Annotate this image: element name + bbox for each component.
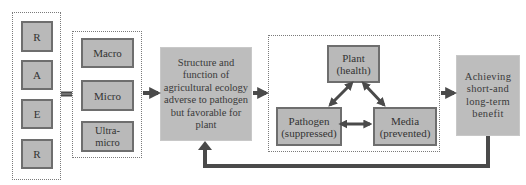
connector-raer-to-scale bbox=[61, 92, 72, 97]
feedback-arrowhead-icon bbox=[198, 141, 212, 150]
double-arrow-icon bbox=[366, 86, 384, 105]
feedback-arrow-icon bbox=[205, 136, 488, 166]
arrows-layer bbox=[0, 0, 526, 185]
double-arrow-icon bbox=[330, 86, 349, 105]
